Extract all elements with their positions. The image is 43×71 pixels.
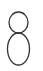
lower-loop bbox=[8, 33, 30, 65]
upper-loop bbox=[9, 12, 28, 33]
digit-eight-icon bbox=[0, 0, 43, 71]
